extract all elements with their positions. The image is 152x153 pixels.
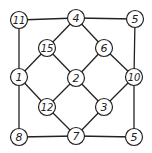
node-n10: 10 (126, 69, 143, 86)
node-n12: 12 (39, 99, 56, 116)
node-label: 6 (101, 42, 108, 55)
node-n5b: 5 (126, 129, 143, 146)
node-label: 12 (41, 102, 54, 113)
node-label: 5 (132, 13, 139, 26)
node-label: 1 (16, 71, 23, 84)
graph-diagram: 11451561210123875 (0, 0, 152, 153)
node-label: 2 (73, 72, 80, 85)
node-label: 11 (13, 15, 26, 26)
node-label: 4 (73, 12, 80, 25)
node-label: 5 (131, 131, 138, 144)
node-label: 8 (16, 131, 23, 144)
node-n5a: 5 (127, 11, 144, 28)
node-n4: 4 (68, 10, 85, 27)
node-label: 7 (73, 130, 80, 143)
node-n11: 11 (11, 12, 28, 29)
node-n3: 3 (96, 99, 113, 116)
node-n1: 1 (11, 69, 28, 86)
node-n15: 15 (39, 40, 56, 57)
node-n7: 7 (68, 128, 85, 145)
node-n6: 6 (96, 40, 113, 57)
nodes-layer: 11451561210123875 (11, 10, 144, 146)
graph-svg: 11451561210123875 (0, 0, 152, 153)
node-n8: 8 (11, 129, 28, 146)
node-label: 3 (101, 101, 108, 114)
node-label: 15 (41, 43, 54, 54)
node-label: 10 (128, 72, 141, 83)
node-n2: 2 (68, 70, 85, 87)
